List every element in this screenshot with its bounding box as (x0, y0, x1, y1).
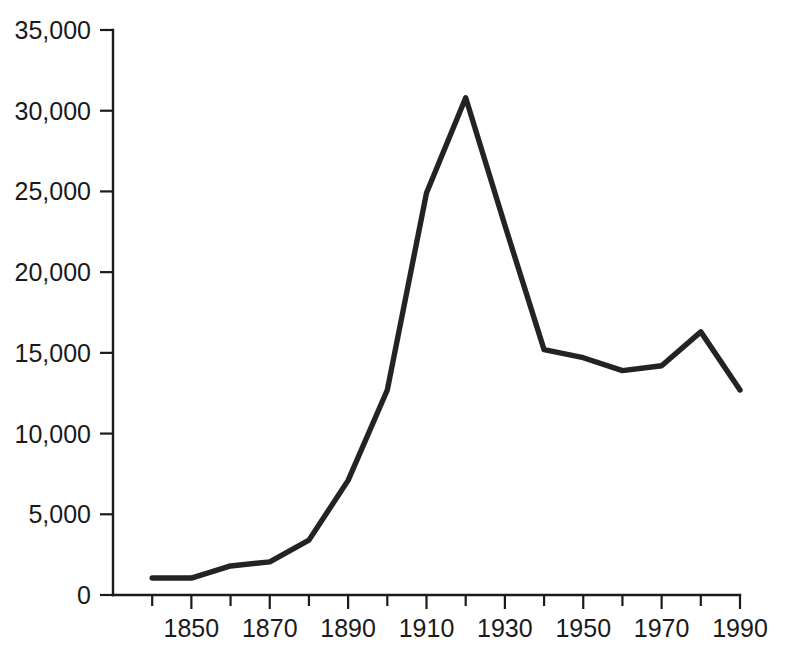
y-tick-label: 0 (77, 581, 91, 609)
x-tick-label: 1930 (477, 614, 533, 642)
y-axis-tick-labels: 05,00010,00015,00020,00025,00030,00035,0… (15, 16, 91, 609)
x-tick-label: 1870 (242, 614, 298, 642)
line-chart: 05,00010,00015,00020,00025,00030,00035,0… (0, 0, 785, 671)
y-tick-label: 30,000 (15, 97, 91, 125)
y-tick-label: 35,000 (15, 16, 91, 44)
x-tick-label: 1910 (399, 614, 455, 642)
y-tick-label: 5,000 (28, 500, 91, 528)
x-axis-tick-labels: 18501870189019101930195019701990 (164, 614, 768, 642)
x-tick-label: 1990 (712, 614, 768, 642)
chart-canvas: 05,00010,00015,00020,00025,00030,00035,0… (0, 0, 785, 671)
x-tick-label: 1850 (164, 614, 220, 642)
x-tick-label: 1970 (634, 614, 690, 642)
data-series-line (152, 98, 740, 578)
y-tick-label: 20,000 (15, 258, 91, 286)
x-tick-label: 1890 (320, 614, 376, 642)
y-axis-tick-marks (100, 30, 113, 595)
y-tick-label: 10,000 (15, 420, 91, 448)
x-tick-label: 1950 (555, 614, 611, 642)
x-axis-tick-marks (152, 595, 740, 609)
y-tick-label: 15,000 (15, 339, 91, 367)
y-tick-label: 25,000 (15, 177, 91, 205)
